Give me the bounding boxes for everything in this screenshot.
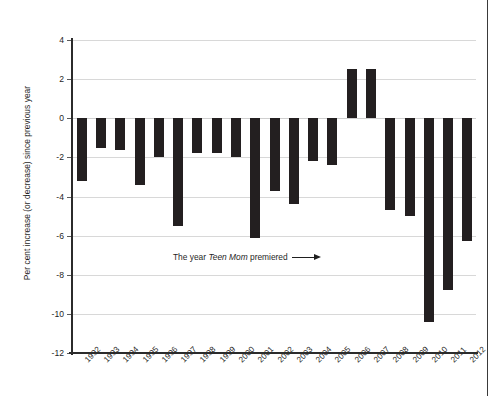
x-tick-label-1992: 1992 <box>83 345 103 365</box>
gridline <box>71 314 476 315</box>
bar-2007 <box>366 69 376 118</box>
x-tick-label-2011: 2011 <box>449 345 468 364</box>
y-axis-line <box>71 38 73 355</box>
gridline <box>71 197 476 198</box>
bar-2004 <box>308 118 318 161</box>
y-axis-title: Per cent increase (or decrease) since pr… <box>22 18 36 348</box>
chart-figure: Per cent increase (or decrease) since pr… <box>0 0 501 396</box>
x-tick-label-1997: 1997 <box>179 345 199 365</box>
bar-1996 <box>154 118 164 157</box>
x-tick-label-2003: 2003 <box>295 345 315 365</box>
x-tick-label-2009: 2009 <box>411 345 431 365</box>
x-tick-label-2007: 2007 <box>372 345 392 365</box>
bar-2000 <box>231 118 241 157</box>
bar-1998 <box>192 118 202 153</box>
x-tick-label-1998: 1998 <box>198 345 218 365</box>
x-tick-label-1999: 1999 <box>218 345 238 365</box>
x-tick-label-2006: 2006 <box>353 345 373 365</box>
annotation-emphasis: Teen Mom <box>208 252 247 262</box>
y-tick-label: -10 <box>52 309 64 319</box>
bar-2012 <box>462 118 472 241</box>
x-tick-label-1993: 1993 <box>102 345 122 365</box>
x-tick-label-1996: 1996 <box>160 345 180 365</box>
y-tick-label: -4 <box>56 192 64 202</box>
annotation-text: The year Teen Mom premiered <box>173 252 288 262</box>
bar-1995 <box>135 118 145 185</box>
bar-2008 <box>385 118 395 210</box>
y-tick-label: 4 <box>59 35 64 45</box>
x-tick-label-2001: 2001 <box>256 345 276 365</box>
x-tick-label-1994: 1994 <box>121 345 141 365</box>
bar-1997 <box>173 118 183 226</box>
x-tick-label-2000: 2000 <box>237 345 257 365</box>
x-tick-label-2012: 2012 <box>468 345 488 365</box>
annotation-suffix: premiered <box>248 252 288 262</box>
y-tick-label: -8 <box>56 270 64 280</box>
annotation-teen-mom: The year Teen Mom premiered <box>173 252 322 262</box>
y-tick-label: -6 <box>56 231 64 241</box>
annotation-prefix: The year <box>173 252 208 262</box>
x-tick-label-1995: 1995 <box>141 345 161 365</box>
bar-1999 <box>212 118 222 153</box>
x-tick-label-2008: 2008 <box>391 345 411 365</box>
x-axis-line <box>69 352 478 354</box>
y-tick-label: 0 <box>59 113 64 123</box>
bar-2005 <box>327 118 337 165</box>
x-tick-label-2010: 2010 <box>430 345 450 365</box>
bar-1992 <box>77 118 87 181</box>
bar-2003 <box>289 118 299 204</box>
y-tick-label: -12 <box>52 348 64 358</box>
plot-area: 420-2-4-6-8-10-12 1992199319941995199619… <box>71 40 476 353</box>
x-tick-label-2005: 2005 <box>333 345 353 365</box>
right-arrow-icon <box>292 253 322 261</box>
gridline <box>71 79 476 80</box>
bar-2002 <box>270 118 280 190</box>
x-tick-label-2004: 2004 <box>314 345 334 365</box>
gridline <box>71 40 476 41</box>
x-tick-label-2002: 2002 <box>276 345 296 365</box>
bar-2009 <box>405 118 415 216</box>
bar-2011 <box>443 118 453 290</box>
bar-2006 <box>347 69 357 118</box>
y-tick-label: -2 <box>56 152 64 162</box>
y-tick-label: 2 <box>59 74 64 84</box>
bar-1994 <box>115 118 125 149</box>
bar-1993 <box>96 118 106 147</box>
gridline <box>71 236 476 237</box>
bar-2001 <box>250 118 260 237</box>
bar-2010 <box>424 118 434 321</box>
gridline <box>71 275 476 276</box>
